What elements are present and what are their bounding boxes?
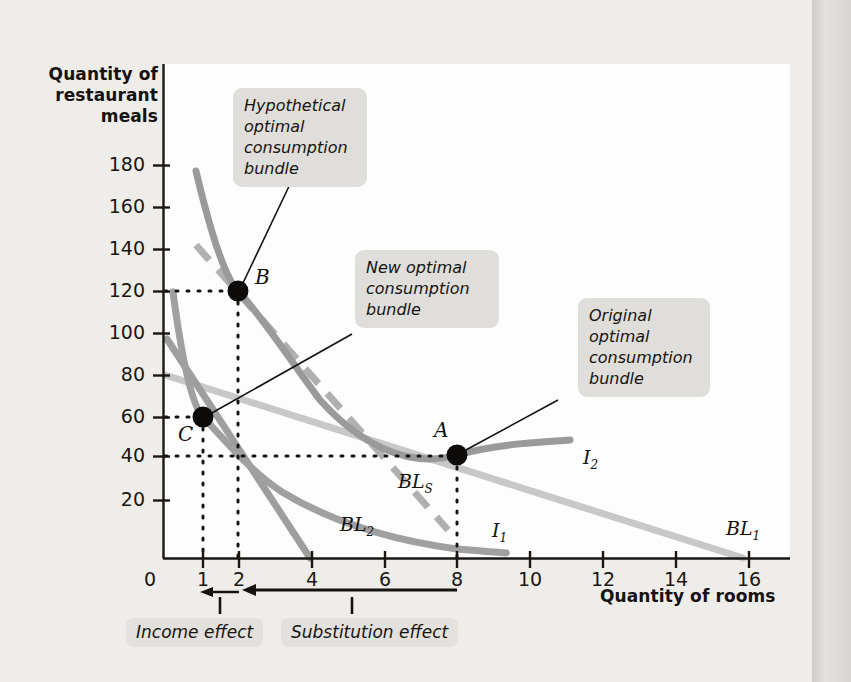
curve-label-i1-sub: 1 bbox=[500, 531, 508, 545]
x-tick-12: 12 bbox=[588, 568, 618, 590]
curve-label-bl2-sub: 2 bbox=[367, 525, 375, 539]
x-tick-10: 10 bbox=[515, 568, 545, 590]
x-tick-16: 16 bbox=[734, 568, 764, 590]
y-tick-160: 160 bbox=[90, 195, 145, 217]
y-axis-title: Quantity of restaurant meals bbox=[28, 64, 158, 127]
y-tick-80: 80 bbox=[90, 363, 145, 385]
x-tick-2: 2 bbox=[224, 568, 254, 590]
figure-page: Quantity of restaurant meals Quantity of… bbox=[0, 0, 851, 682]
curve-label-bls-text: BL bbox=[398, 470, 425, 492]
curve-label-i2-text: I bbox=[583, 446, 591, 468]
curve-label-bl2: BL2 bbox=[340, 513, 374, 539]
substitution-effect-label: Substitution effect bbox=[281, 618, 458, 647]
curve-label-i2: I2 bbox=[583, 446, 598, 472]
y-axis-ticks bbox=[153, 166, 170, 501]
x-tick-6: 6 bbox=[370, 568, 400, 590]
y-tick-100: 100 bbox=[90, 321, 145, 343]
x-tick-1: 1 bbox=[188, 568, 218, 590]
point-a-marker[interactable] bbox=[447, 445, 468, 466]
y-tick-40: 40 bbox=[90, 444, 145, 466]
point-b-label: B bbox=[255, 265, 270, 289]
callout-original-bundle: Original optimal consumption bundle bbox=[578, 298, 710, 397]
curve-label-bls-sub: S bbox=[425, 482, 433, 496]
curve-label-i1-text: I bbox=[492, 519, 500, 541]
x-tick-4: 4 bbox=[297, 568, 327, 590]
curve-label-bl2-text: BL bbox=[340, 513, 367, 535]
substitution-effect-arrow bbox=[242, 584, 457, 614]
point-c-label: C bbox=[178, 422, 193, 446]
callout-new-bundle: New optimal consumption bundle bbox=[355, 250, 499, 328]
point-a-label: A bbox=[434, 418, 448, 442]
y-tick-140: 140 bbox=[90, 237, 145, 259]
curve-label-bls: BLS bbox=[398, 470, 433, 496]
curve-label-i2-sub: 2 bbox=[591, 458, 599, 472]
point-c-marker[interactable] bbox=[193, 407, 214, 428]
x-tick-8: 8 bbox=[442, 568, 472, 590]
x-tick-0: 0 bbox=[135, 568, 165, 590]
y-tick-180: 180 bbox=[90, 153, 145, 175]
curve-label-bl1: BL1 bbox=[726, 517, 760, 543]
y-tick-120: 120 bbox=[90, 279, 145, 301]
y-tick-20: 20 bbox=[90, 488, 145, 510]
point-b-marker[interactable] bbox=[228, 281, 249, 302]
income-effect-label: Income effect bbox=[126, 618, 263, 647]
y-tick-60: 60 bbox=[90, 405, 145, 427]
income-effect-arrow bbox=[200, 587, 239, 614]
curve-label-bl1-text: BL bbox=[726, 517, 753, 539]
curve-label-bl1-sub: 1 bbox=[753, 529, 761, 543]
curve-label-i1: I1 bbox=[492, 519, 507, 545]
callout-hypothetical-bundle: Hypothetical optimal consumption bundle bbox=[233, 88, 367, 187]
x-tick-14: 14 bbox=[661, 568, 691, 590]
